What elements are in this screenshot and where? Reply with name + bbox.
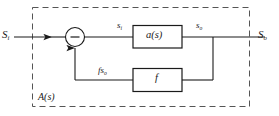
forward-output-label: so — [196, 21, 202, 30]
error-signal-label: si — [117, 21, 122, 30]
system-block-label: A(s) — [38, 92, 55, 102]
feedback-signal-label: fso — [98, 66, 107, 75]
forward-block-label: a(s) — [146, 30, 162, 41]
feedback-block-label: f — [155, 73, 158, 84]
input-signal-label: Si — [2, 29, 9, 40]
output-signal-label: So — [258, 29, 267, 40]
block-diagram-figure: Si So si so fso a(s) f A(s) — [0, 0, 279, 116]
